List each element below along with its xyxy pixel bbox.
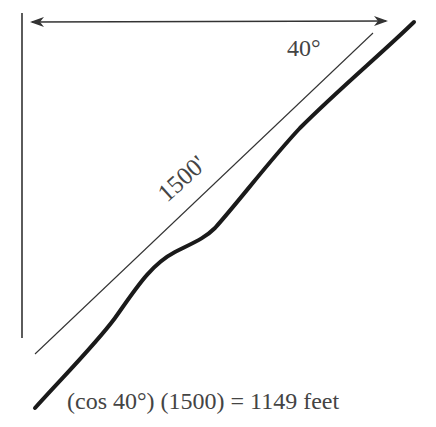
slope-diagram: 40° 1500' (cos 40°) (1500) = 1149 feet (0, 0, 436, 427)
slope-length-label: 1500' (152, 150, 211, 207)
angle-label: 40° (287, 35, 321, 61)
terrain-profile-curve (35, 22, 414, 408)
horizontal-distance-arrow (32, 21, 386, 22)
formula-text: (cos 40°) (1500) = 1149 feet (67, 388, 340, 414)
slope-line (35, 33, 373, 354)
